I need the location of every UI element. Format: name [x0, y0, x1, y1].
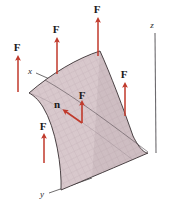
force-arrow-lower-left: F	[40, 120, 47, 163]
force-arrow-top-label: F	[94, 3, 101, 15]
curved-surface	[0, 0, 170, 209]
force-arrow-lower-left-label: F	[40, 120, 47, 132]
normal-vector-label: n	[54, 98, 60, 110]
force-arrow-left-outer: F	[14, 41, 21, 92]
z-axis-line	[155, 33, 156, 153]
x-axis-label: x	[27, 66, 32, 76]
surface-mesh-overlay	[0, 0, 170, 209]
y-axis-label: y	[39, 189, 44, 199]
force-arrow-right-label: F	[121, 68, 128, 80]
figure-container: F F F F F F	[0, 0, 170, 209]
force-arrow-upper-left: F	[53, 23, 60, 74]
force-arrow-center-label: F	[79, 89, 86, 101]
z-axis-label: z	[149, 20, 154, 30]
force-on-curved-surface-diagram: F F F F F F	[0, 0, 170, 209]
force-arrow-upper-left-label: F	[53, 23, 60, 35]
force-arrow-left-outer-label: F	[14, 41, 21, 53]
force-arrow-top: F	[94, 3, 101, 56]
